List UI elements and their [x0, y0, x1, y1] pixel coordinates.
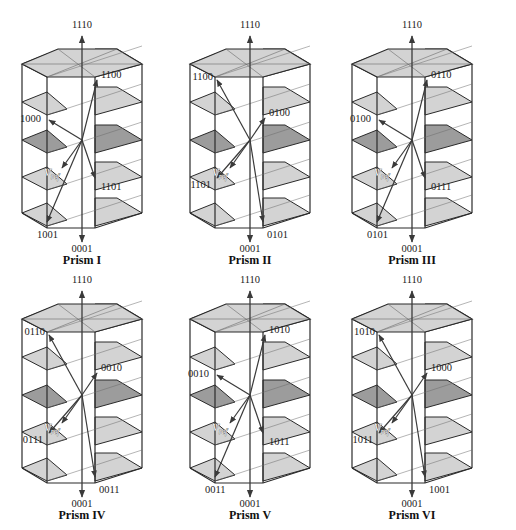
prism-panel-6: 1010100010111001Vref11100001Prism VI — [352, 274, 472, 522]
vertex-label: 1010 — [269, 324, 290, 335]
prism-title: Prism II — [229, 253, 272, 267]
shelf-left — [22, 130, 67, 153]
shelf-right — [425, 125, 472, 153]
prism-figure: 1100100011011001Vref11100001Prism I11000… — [0, 0, 516, 530]
vertex-label: 1011 — [269, 436, 290, 447]
shelf-right — [263, 342, 310, 370]
top-label: 1110 — [72, 19, 92, 30]
shelf-right — [95, 125, 142, 153]
vertex-label: 1000 — [20, 113, 41, 124]
vertex-label: 0010 — [101, 362, 122, 373]
vertex-label: 1000 — [431, 362, 452, 373]
shelf-right — [425, 198, 472, 226]
shelf-left — [22, 385, 67, 408]
prism-panel-5: 1010001010110011Vref11100001Prism V — [188, 274, 310, 522]
prism-title: Prism VI — [389, 508, 436, 522]
vertex-label: 1011 — [352, 434, 373, 445]
vertex-label: 1010 — [354, 326, 375, 337]
vector-arrow-0101 — [250, 140, 263, 222]
vertex-label: 1101 — [190, 179, 211, 190]
shelf-left — [190, 385, 235, 408]
prism-title: Prism IV — [59, 508, 106, 522]
vertex-label: 1001 — [429, 484, 450, 495]
shelf-left — [352, 458, 397, 481]
prism-panel-4: 0110001001110011Vref11100001Prism IV — [22, 274, 142, 522]
shelf-right — [425, 380, 472, 408]
shelf-right — [95, 453, 142, 481]
shelf-left — [352, 385, 397, 408]
shelf-right — [263, 380, 310, 408]
vector-arrow-1001 — [412, 395, 425, 477]
shelf-left — [22, 203, 67, 226]
prism-panel-3: 0110010001110101Vref11100001Prism III — [350, 19, 472, 267]
vertex-label: 0010 — [188, 368, 209, 379]
shelf-left — [190, 203, 235, 226]
shelf-left — [352, 203, 397, 226]
vector-arrow-0011 — [82, 395, 95, 477]
top-label: 1110 — [72, 274, 92, 285]
vref-arrow — [392, 395, 412, 423]
top-label: 1110 — [240, 274, 260, 285]
top-label: 1110 — [240, 19, 260, 30]
shelf-left — [190, 130, 235, 153]
vref-arrow — [230, 140, 250, 168]
top-label: 1110 — [402, 19, 422, 30]
vref-arrow — [62, 395, 82, 423]
vertex-label: 0110 — [24, 326, 45, 337]
shelf-right — [95, 198, 142, 226]
shelf-right — [95, 380, 142, 408]
shelf-left — [190, 347, 235, 370]
vertex-label: 1100 — [192, 71, 213, 82]
vertex-label: 0101 — [367, 229, 388, 240]
shelf-right — [263, 125, 310, 153]
shelf-left — [190, 92, 235, 115]
shelf-right — [95, 87, 142, 115]
shelf-left — [22, 347, 67, 370]
shelf-left — [22, 92, 67, 115]
vertex-label: 0111 — [431, 181, 451, 192]
top-label: 1110 — [402, 274, 422, 285]
vector-arrow-1011 — [250, 395, 263, 433]
vector-arrow-1101 — [82, 140, 95, 178]
prism-title: Prism V — [229, 508, 271, 522]
shelf-left — [352, 347, 397, 370]
vertex-label: 0011 — [99, 484, 120, 495]
shelf-right — [263, 198, 310, 226]
vector-arrow-0111 — [412, 140, 425, 178]
shelf-right — [95, 417, 142, 445]
shelf-left — [352, 92, 397, 115]
shelf-right — [425, 87, 472, 115]
vertex-label: 0011 — [205, 484, 226, 495]
shelf-right — [263, 162, 310, 190]
shelf-right — [425, 453, 472, 481]
vertex-label: 1101 — [101, 181, 122, 192]
shelf-left — [352, 130, 397, 153]
shelf-right — [425, 417, 472, 445]
prism-title: Prism III — [388, 253, 436, 267]
shelf-right — [263, 453, 310, 481]
shelf-left — [22, 458, 67, 481]
vertex-label: 0110 — [431, 69, 452, 80]
vertex-label: 1100 — [101, 69, 122, 80]
prism-title: Prism I — [63, 253, 102, 267]
shelf-left — [190, 458, 235, 481]
vertex-label: 1001 — [37, 229, 58, 240]
vertex-label: 0100 — [269, 107, 290, 118]
prism-panel-1: 1100100011011001Vref11100001Prism I — [20, 19, 142, 267]
prism-panel-2: 1100010011010101Vref11100001Prism II — [190, 19, 310, 267]
vertex-label: 0101 — [267, 229, 288, 240]
vertex-label: 0100 — [350, 113, 371, 124]
vertex-label: 0111 — [23, 434, 43, 445]
